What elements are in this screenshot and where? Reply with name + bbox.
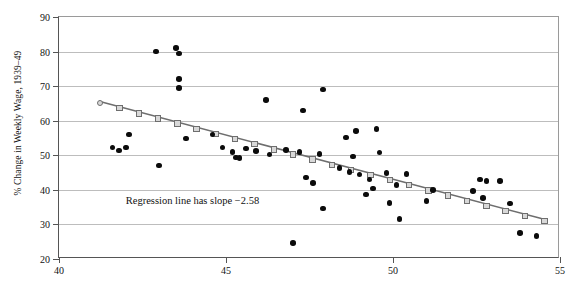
regression-marker	[522, 213, 528, 219]
data-point	[116, 148, 122, 154]
data-point	[297, 149, 303, 155]
data-point	[176, 76, 182, 82]
data-point	[480, 195, 486, 201]
regression-marker	[271, 146, 277, 152]
regression-marker	[136, 110, 142, 116]
data-point	[370, 186, 376, 192]
data-point	[310, 180, 316, 186]
regression-marker	[464, 198, 470, 204]
x-tick-label: 50	[388, 265, 398, 276]
x-tick	[226, 257, 227, 263]
data-point	[404, 171, 410, 177]
data-point	[263, 97, 269, 103]
regression-marker	[174, 120, 180, 126]
data-point	[300, 108, 306, 114]
plot-area: 2030405060708090 40455055 Regression lin…	[58, 16, 559, 258]
data-point	[243, 146, 249, 152]
data-point	[394, 182, 400, 188]
x-tick-label: 40	[54, 265, 64, 276]
data-point	[337, 165, 343, 171]
data-point	[317, 151, 323, 157]
regression-line	[59, 17, 558, 257]
y-tick-label: 30	[40, 219, 50, 230]
regression-marker	[387, 177, 393, 183]
regression-annotation: Regression line has slope −2.58	[126, 195, 259, 206]
data-point	[384, 170, 390, 176]
regression-marker	[251, 141, 257, 147]
regression-marker	[502, 208, 508, 214]
x-tick	[393, 257, 394, 263]
data-point	[347, 169, 353, 175]
x-tick-label: 55	[555, 265, 565, 276]
data-point	[477, 177, 483, 183]
data-point	[517, 230, 523, 236]
data-point	[123, 145, 129, 151]
data-point	[484, 178, 490, 184]
regression-marker	[193, 126, 199, 132]
data-point	[497, 178, 503, 184]
y-tick-label: 90	[40, 12, 50, 23]
y-tick-label: 70	[40, 81, 50, 92]
x-tick-label: 45	[221, 265, 231, 276]
data-point	[374, 126, 380, 132]
y-tick-label: 50	[40, 150, 50, 161]
x-tick	[560, 257, 561, 263]
data-point	[176, 85, 182, 91]
data-point	[303, 175, 309, 181]
data-point	[470, 188, 476, 194]
scatter-plot-figure: % Change in Weekly Wage, 1939–49 2030405…	[0, 0, 571, 281]
data-point	[230, 149, 236, 155]
y-axis-label: % Change in Weekly Wage, 1939–49	[13, 43, 23, 203]
regression-marker	[309, 156, 315, 162]
data-point	[343, 135, 349, 141]
regression-marker	[406, 182, 412, 188]
regression-marker	[541, 218, 547, 224]
regression-marker	[483, 203, 489, 209]
data-point	[237, 155, 243, 161]
regression-marker	[116, 105, 122, 111]
data-point	[283, 147, 289, 153]
y-tick-label: 60	[40, 115, 50, 126]
y-tick-label: 80	[40, 46, 50, 57]
data-point	[253, 148, 259, 154]
data-point	[320, 87, 326, 93]
data-point	[153, 49, 159, 55]
data-point	[290, 240, 296, 246]
regression-marker	[329, 162, 335, 168]
regression-marker	[290, 151, 296, 157]
regression-marker	[232, 136, 238, 142]
data-point	[353, 128, 359, 134]
data-point	[424, 198, 430, 204]
data-point	[320, 206, 326, 212]
x-tick	[59, 257, 60, 263]
y-tick-label: 40	[40, 184, 50, 195]
data-point	[430, 187, 436, 193]
regression-marker	[445, 192, 451, 198]
regression-marker	[155, 115, 161, 121]
y-tick-label: 20	[40, 254, 50, 265]
